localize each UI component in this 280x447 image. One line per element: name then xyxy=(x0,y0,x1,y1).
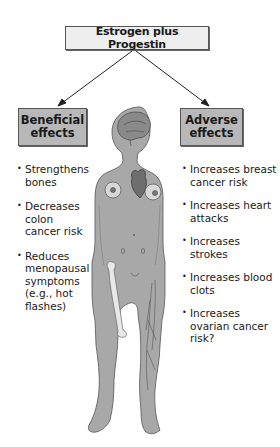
list-item: Increases blood clots xyxy=(182,271,278,296)
title-box: Estrogen plus Progestin xyxy=(65,26,209,50)
adverse-heading: Adverse effects xyxy=(181,114,242,140)
list-item: Reduces menopausal symptoms (e.g., hot f… xyxy=(17,250,89,313)
beneficial-heading: Beneficial effects xyxy=(19,114,86,140)
brain-icon xyxy=(118,112,151,140)
breast-right xyxy=(145,184,161,200)
adverse-effects-box: Adverse effects xyxy=(180,108,243,146)
list-item: Increases ovarian cancer risk? xyxy=(182,307,278,345)
title-text: Estrogen plus Progestin xyxy=(66,25,208,51)
adverse-effects-list: Increases breast cancer risk Increases h… xyxy=(182,163,278,356)
navel xyxy=(133,234,135,236)
list-item: Decreases colon cancer risk xyxy=(17,200,89,238)
beneficial-effects-box: Beneficial effects xyxy=(18,108,87,146)
list-item: Increases strokes xyxy=(182,235,278,260)
list-item: Strengthens bones xyxy=(17,163,89,188)
beneficial-effects-list: Strengthens bones Decreases colon cancer… xyxy=(17,163,89,324)
body-silhouette xyxy=(88,107,165,434)
list-item: Increases breast cancer risk xyxy=(182,163,278,188)
arrows xyxy=(58,51,209,106)
list-item: Increases heart attacks xyxy=(182,199,278,224)
breast-left xyxy=(105,182,121,198)
